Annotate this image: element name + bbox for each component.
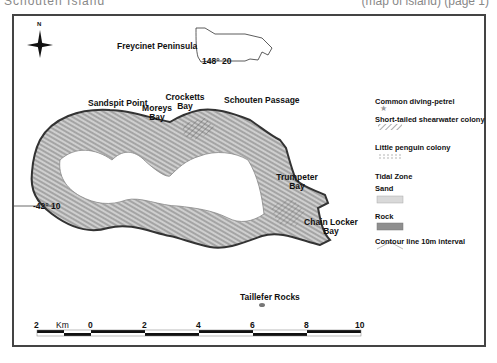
inset-label: Freycinet Peninsula <box>117 42 197 51</box>
rock-swatch <box>377 223 403 230</box>
island-map: ★ <box>0 0 497 363</box>
taillefer-rocks-marker <box>259 303 265 307</box>
sand-swatch <box>377 196 403 203</box>
scale-tick-10: 10 <box>355 320 364 330</box>
place-schouten-passage: Schouten Passage <box>224 96 300 105</box>
scale-tick-8: 8 <box>304 320 309 330</box>
legend-sand: Sand <box>375 184 393 193</box>
north-arrow-icon <box>27 30 53 58</box>
legend-common-diving-petrel: Common diving-petrel <box>375 97 455 106</box>
scale-tick-neg2: 2 <box>34 320 39 330</box>
scale-tick-0: 0 <box>88 320 93 330</box>
legend-shearwater-colony: Short-tailed shearwater colony <box>375 115 485 124</box>
scale-bar <box>37 330 361 336</box>
place-chain-locker-bay: Chain Locker Bay <box>301 218 361 236</box>
place-sandspit-point: Sandspit Point <box>88 99 148 108</box>
place-crocketts-bay: Crocketts Bay <box>165 93 205 111</box>
longitude-label: 148° 20 <box>202 57 231 66</box>
legend-penguin-colony: Little penguin colony <box>375 143 450 152</box>
legend-rock: Rock <box>375 212 393 221</box>
legend-contour-line: Contour line 10m interval <box>375 237 465 246</box>
scale-tick-2: 2 <box>142 320 147 330</box>
latitude-label: -42° 10 <box>33 202 61 211</box>
scale-unit: Km <box>56 320 69 330</box>
legend-tidal-zone: Tidal Zone <box>375 172 412 181</box>
place-trumpeter-bay: Trumpeter Bay <box>272 173 322 191</box>
scale-tick-4: 4 <box>196 320 201 330</box>
scale-tick-6: 6 <box>250 320 255 330</box>
north-label: N <box>37 20 41 29</box>
hatch-icon <box>378 124 402 130</box>
dot-grid-icon <box>379 154 401 159</box>
place-taillefer-rocks: Taillefer Rocks <box>240 293 300 302</box>
